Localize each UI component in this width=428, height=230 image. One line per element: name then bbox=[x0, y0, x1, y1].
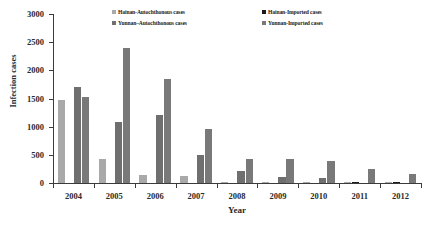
bar bbox=[262, 182, 269, 183]
x-tick-mark bbox=[380, 183, 381, 188]
bar bbox=[344, 182, 351, 183]
bar-chart: Hainan-Autochthonous casesHainan-Importe… bbox=[0, 0, 428, 230]
bar bbox=[99, 159, 106, 183]
x-tick-label: 2012 bbox=[381, 191, 421, 201]
bar bbox=[409, 174, 416, 183]
x-tick-label: 2006 bbox=[135, 191, 175, 201]
x-tick-mark bbox=[53, 183, 54, 188]
x-tick-label: 2005 bbox=[94, 191, 134, 201]
bar bbox=[58, 100, 65, 183]
y-tick-label: 1000 bbox=[0, 123, 44, 131]
x-tick-mark bbox=[257, 183, 258, 188]
y-tick-label: 0 bbox=[0, 179, 44, 187]
x-tick-label: 2007 bbox=[176, 191, 216, 201]
plot-area bbox=[53, 14, 421, 183]
y-tick-label: 3000 bbox=[0, 10, 44, 18]
bar bbox=[156, 115, 163, 183]
x-tick-label: 2008 bbox=[217, 191, 257, 201]
x-tick-label: 2010 bbox=[299, 191, 339, 201]
x-tick-label: 2004 bbox=[53, 191, 93, 201]
bar bbox=[74, 87, 81, 183]
x-axis-line bbox=[53, 183, 421, 184]
bar bbox=[327, 161, 334, 183]
y-tick-label: 1500 bbox=[0, 95, 44, 103]
bar bbox=[123, 48, 130, 183]
bar bbox=[82, 97, 89, 183]
bar bbox=[352, 182, 359, 183]
bar bbox=[278, 177, 285, 183]
x-tick-mark bbox=[339, 183, 340, 188]
y-axis-title: Infection cases bbox=[8, 16, 18, 146]
x-tick-mark bbox=[421, 183, 422, 188]
x-tick-mark bbox=[94, 183, 95, 188]
bar bbox=[197, 155, 204, 183]
bar bbox=[164, 79, 171, 183]
bar bbox=[246, 159, 253, 184]
bar bbox=[115, 122, 122, 183]
x-tick-label: 2009 bbox=[258, 191, 298, 201]
bar bbox=[221, 182, 228, 183]
bar bbox=[303, 182, 310, 183]
y-tick-label: 2500 bbox=[0, 38, 44, 46]
bar bbox=[385, 182, 392, 183]
bar bbox=[139, 175, 146, 183]
x-tick-mark bbox=[176, 183, 177, 188]
bar bbox=[180, 176, 187, 183]
bar bbox=[368, 169, 375, 183]
y-tick-label: 500 bbox=[0, 151, 44, 159]
x-tick-mark bbox=[217, 183, 218, 188]
x-tick-mark bbox=[298, 183, 299, 188]
x-tick-mark bbox=[135, 183, 136, 188]
bar bbox=[286, 159, 293, 183]
bar bbox=[393, 182, 400, 183]
bar bbox=[237, 171, 244, 183]
y-tick-label: 2000 bbox=[0, 66, 44, 74]
bar bbox=[319, 178, 326, 183]
x-axis-title: Year bbox=[53, 205, 421, 215]
bar bbox=[205, 129, 212, 183]
x-tick-label: 2011 bbox=[340, 191, 380, 201]
